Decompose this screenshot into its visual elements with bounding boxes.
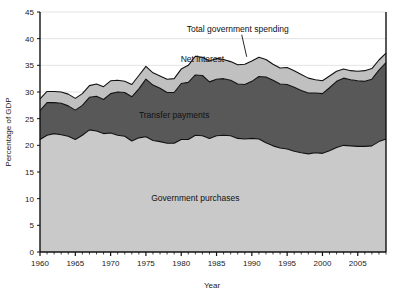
x-tick-label: 2000 — [314, 259, 332, 268]
x-tick-label: 1970 — [102, 259, 120, 268]
x-axis-label: Year — [204, 281, 221, 290]
area-chart: 051015202530354045 196019651970197519801… — [0, 0, 415, 296]
y-tick-label: 25 — [25, 115, 34, 124]
annotation-government-purchases: Government purchases — [151, 193, 239, 203]
y-tick-label: 40 — [25, 35, 34, 44]
x-tick-label: 1965 — [66, 259, 84, 268]
x-tick-label: 1990 — [243, 259, 261, 268]
y-tick-label: 15 — [25, 168, 34, 177]
annotation-transfer-payments: Transfer payments — [139, 110, 210, 120]
y-tick-label: 45 — [25, 8, 34, 17]
x-tick-label: 1975 — [137, 259, 155, 268]
y-tick-label: 35 — [25, 61, 34, 70]
y-tick-label: 30 — [25, 88, 34, 97]
x-tick-label: 1980 — [172, 259, 190, 268]
annotation-net-interest: Net interest — [181, 54, 225, 64]
y-tick-label: 0 — [30, 248, 35, 257]
y-tick-label: 5 — [30, 221, 35, 230]
x-tick-label: 1960 — [31, 259, 49, 268]
x-tick-label: 1995 — [278, 259, 296, 268]
chart-container: 051015202530354045 196019651970197519801… — [0, 0, 415, 296]
annotation-total-government-spending: Total government spending — [187, 24, 289, 34]
x-tick-label: 1985 — [208, 259, 226, 268]
y-tick-label: 20 — [25, 141, 34, 150]
y-axis-label: Percentage of GDP — [4, 97, 13, 166]
x-tick-label: 2005 — [349, 259, 367, 268]
y-tick-label: 10 — [25, 195, 34, 204]
